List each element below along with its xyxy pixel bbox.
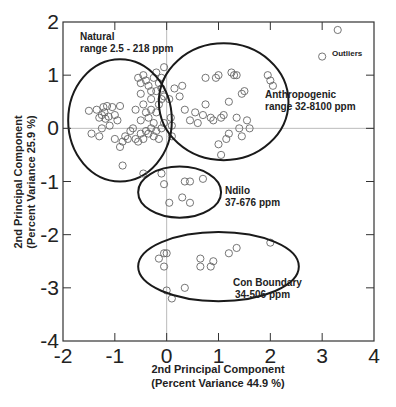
x-tick-label: -1 — [105, 344, 124, 367]
y-axis-title-line1: 2nd Principal Component — [12, 115, 24, 249]
data-point-ndilo — [186, 199, 193, 206]
data-point-anthropogenic — [199, 111, 206, 118]
data-point-con-boundary — [181, 284, 188, 291]
data-point-natural — [132, 106, 139, 113]
data-point-anthropogenic — [202, 74, 209, 81]
x-tick-label: 4 — [368, 344, 380, 367]
pca-scatter-chart: Naturalrange 2.5 - 218 ppmAnthropogenicr… — [0, 0, 396, 407]
x-axis-title-line1: 2nd Principal Component — [151, 363, 285, 375]
data-point-anthropogenic — [171, 85, 178, 92]
data-point-natural — [119, 162, 126, 169]
label-natural-line1: Natural — [80, 31, 115, 42]
y-tick-label: 0 — [47, 116, 59, 139]
data-point-natural — [111, 135, 118, 142]
data-point-anthropogenic — [192, 109, 199, 116]
y-axis-title-line2: (Percent Variance 25.9 %) — [25, 115, 37, 249]
label-anthropogenic-line2: range 32-8100 ppm — [265, 101, 356, 112]
data-point-anthropogenic — [179, 82, 186, 89]
label-outliers-line1: Outliers — [332, 49, 363, 58]
data-point-anthropogenic — [238, 133, 245, 140]
data-point-con-boundary — [197, 263, 204, 270]
data-point-ndilo — [199, 175, 206, 182]
label-ndilo-line2: 37-676 ppm — [225, 197, 280, 208]
y-tick-label: -2 — [40, 223, 59, 246]
data-point-natural — [137, 117, 144, 124]
data-point-con-boundary — [233, 244, 240, 251]
data-point-con-boundary — [197, 255, 204, 262]
data-point-natural — [140, 101, 147, 108]
data-point-natural — [96, 133, 103, 140]
y-tick-label: 1 — [47, 63, 59, 86]
y-tick-label: -1 — [40, 170, 59, 193]
data-point-anthropogenic — [243, 117, 250, 124]
data-point-natural — [88, 130, 95, 137]
data-point-con-boundary — [225, 250, 232, 257]
data-point-outliers — [334, 26, 341, 33]
group-annotations: Naturalrange 2.5 - 218 ppmAnthropogenicr… — [80, 31, 363, 300]
y-tick-label: -3 — [40, 276, 59, 299]
data-point-anthropogenic — [202, 101, 209, 108]
data-point-natural — [109, 103, 116, 110]
data-point-anthropogenic — [176, 93, 183, 100]
data-point-ndilo — [179, 194, 186, 201]
data-point-ndilo — [158, 170, 165, 177]
label-anthropogenic-line1: Anthropogenic — [265, 89, 337, 100]
y-tick-label: -4 — [40, 329, 59, 352]
data-point-anthropogenic — [225, 98, 232, 105]
data-point-anthropogenic — [215, 141, 222, 148]
data-point-anthropogenic — [217, 151, 224, 158]
x-axis-title-line2: (Percent Variance 44.9 %) — [151, 377, 285, 389]
y-tick-label: 2 — [47, 10, 59, 33]
plot-area — [63, 22, 374, 341]
axes: -2-101234-4-3-2-1012 — [40, 10, 380, 367]
data-point-ndilo — [186, 178, 193, 185]
label-natural-line2: range 2.5 - 218 ppm — [80, 43, 173, 54]
data-point-anthropogenic — [233, 114, 240, 121]
label-con-boundary-line2: 34-506 ppm — [235, 289, 290, 300]
data-point-anthropogenic — [186, 117, 193, 124]
cluster-ellipse-ndilo — [138, 167, 221, 218]
data-point-natural — [148, 95, 155, 102]
data-point-anthropogenic — [181, 106, 188, 113]
label-con-boundary-line1: Con Boundary — [233, 277, 302, 288]
data-point-natural — [85, 107, 92, 114]
data-point-outliers — [319, 53, 326, 60]
data-point-natural — [116, 102, 123, 109]
data-point-anthropogenic — [194, 119, 201, 126]
label-ndilo-line1: Ndilo — [225, 185, 250, 196]
data-point-natural — [137, 90, 144, 97]
x-tick-label: 3 — [316, 344, 328, 367]
